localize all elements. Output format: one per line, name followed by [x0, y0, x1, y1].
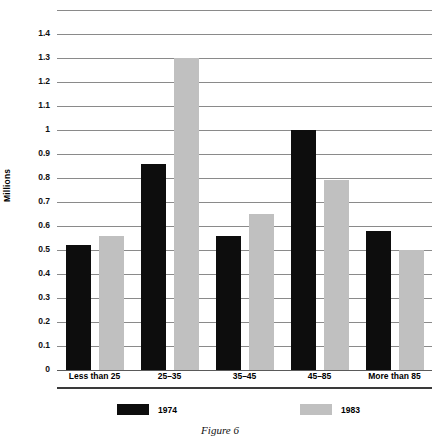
y-tick-label: 0.5: [38, 244, 50, 254]
figure-caption: Figure 6: [0, 424, 440, 436]
bar-1983-45–85: [324, 180, 349, 370]
y-tick-label: 1.2: [38, 76, 50, 86]
legend-swatch-1983: [300, 404, 332, 415]
category-label-35–45: 35–45: [207, 371, 282, 381]
bar-1974-45–85: [291, 130, 316, 370]
category-label-45–85: 45–85: [282, 371, 357, 381]
y-tick-label: 0.8: [38, 172, 50, 182]
category-axis: Less than 2525–3535–4545–85More than 85: [57, 371, 432, 393]
y-tick-label: 1: [45, 124, 50, 134]
bar-1983-more-than-85: [399, 250, 424, 370]
bars-layer: [57, 10, 432, 370]
bar-1983-less-than-25: [99, 236, 124, 370]
y-tick-label: 0.2: [38, 316, 50, 326]
legend-item-1974: 1974: [117, 404, 177, 415]
y-tick-label: 0.9: [38, 148, 50, 158]
bar-1974-25–35: [141, 164, 166, 370]
legend-swatch-1974: [117, 404, 149, 415]
bar-1983-25–35: [174, 58, 199, 370]
bar-1974-more-than-85: [366, 231, 391, 370]
y-tick-label: 1.4: [38, 28, 50, 38]
y-tick-label: 0.3: [38, 292, 50, 302]
y-tick-label: 1.3: [38, 52, 50, 62]
y-tick-label: 0.7: [38, 196, 50, 206]
plot-area: 00.10.20.30.40.50.60.70.80.911.11.21.31.…: [57, 10, 432, 370]
figure-6-chart: Millions 00.10.20.30.40.50.60.70.80.911.…: [0, 0, 440, 441]
bar-1974-less-than-25: [66, 245, 91, 370]
y-tick-label: 0.1: [38, 340, 50, 350]
category-label-more-than-85: More than 85: [357, 371, 432, 381]
y-tick-label: 1.1: [38, 100, 50, 110]
legend-label-1974: 1974: [158, 405, 177, 415]
legend-item-1983: 1983: [300, 404, 360, 415]
bar-1983-35–45: [249, 214, 274, 370]
category-label-25–35: 25–35: [132, 371, 207, 381]
bar-1974-35–45: [216, 236, 241, 370]
y-axis-title: Millions: [2, 122, 12, 202]
category-label-less-than-25: Less than 25: [57, 371, 132, 381]
y-tick-label: 0.4: [38, 268, 50, 278]
y-tick-label: 0.6: [38, 220, 50, 230]
category-axis-line: [57, 387, 432, 389]
chart-legend: 19741983: [57, 404, 432, 420]
y-tick-label: 0: [45, 364, 50, 374]
legend-label-1983: 1983: [341, 405, 360, 415]
